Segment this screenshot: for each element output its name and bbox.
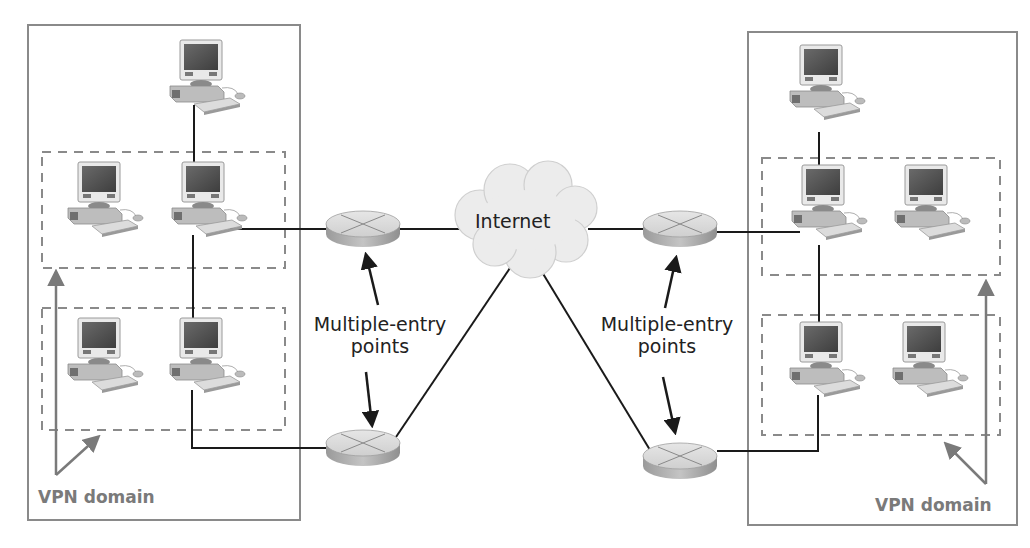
arrow-right-vpn-lower — [946, 444, 986, 484]
left-site-boundary — [28, 25, 300, 520]
arrow-right-entry-down — [663, 377, 675, 432]
network-links — [192, 105, 819, 451]
left-entry-points-label: Multiple-entry points — [305, 313, 455, 357]
left-entry-line2: points — [305, 335, 455, 357]
internet-label: Internet — [475, 210, 550, 232]
left-vpn-domain-label: VPN domain — [38, 487, 155, 507]
right-entry-points-label: Multiple-entry points — [592, 313, 742, 357]
right-vpn-domain-label: VPN domain — [875, 495, 992, 515]
arrow-left-entry-up — [366, 255, 378, 305]
right-entry-line1: Multiple-entry — [592, 313, 742, 335]
computer-left-lower-b — [170, 318, 245, 393]
router-left-lower — [326, 430, 400, 466]
computer-left-upper-a — [68, 162, 143, 237]
computer-left-lower-a — [68, 318, 143, 393]
computer-right-upper-b — [895, 165, 970, 240]
router-right-upper — [643, 211, 717, 247]
computer-right-lower-b — [893, 322, 968, 397]
computer-right-upper-a — [792, 165, 867, 240]
computer-right-top — [790, 45, 865, 120]
arrow-left-entry-down — [366, 372, 372, 425]
computer-left-upper-b — [172, 162, 247, 237]
vpn-network-diagram — [0, 0, 1030, 548]
computer-right-lower-a — [790, 322, 865, 397]
computer-left-top — [170, 40, 245, 115]
router-left-upper — [326, 211, 400, 247]
left-entry-line1: Multiple-entry — [305, 313, 455, 335]
arrow-left-vpn-lower — [56, 437, 98, 475]
router-right-lower — [643, 443, 717, 479]
arrow-right-entry-up — [665, 258, 676, 308]
right-entry-line2: points — [592, 335, 742, 357]
